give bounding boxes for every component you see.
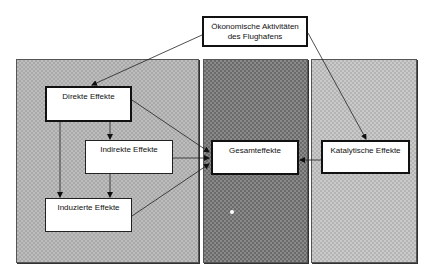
node-induzierte-effekte: Induzierte Effekte — [45, 198, 132, 232]
node-label-line1: Ökonomische Aktivitäten — [204, 18, 306, 32]
artifact-dot — [230, 210, 234, 214]
node-direkte-effekte: Direkte Effekte — [45, 86, 132, 122]
node-katalytische-effekte: Katalytische Effekte — [321, 140, 410, 174]
node-label: Gesamteffekte — [213, 142, 297, 156]
node-label: Direkte Effekte — [47, 88, 130, 102]
node-label-line2: des Flughafens — [204, 32, 306, 42]
node-label: Katalytische Effekte — [323, 142, 408, 156]
node-gesamteffekte: Gesamteffekte — [211, 140, 299, 175]
node-indirekte-effekte: Indirekte Effekte — [85, 140, 173, 174]
node-label: Indirekte Effekte — [86, 141, 172, 155]
node-oekonomische-aktivitaeten: Ökonomische Aktivitäten des Flughafens — [202, 16, 308, 47]
node-label: Induzierte Effekte — [46, 199, 131, 213]
